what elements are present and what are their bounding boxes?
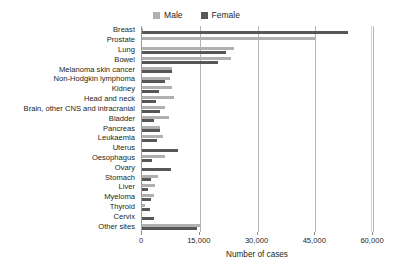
category-label: Bladder [109, 115, 135, 123]
bar-female [142, 80, 165, 83]
axis-tick-label: 30,000 [245, 236, 268, 245]
bar-female [142, 61, 218, 64]
bar-male [142, 135, 163, 138]
bar-male [142, 194, 154, 197]
bar-male [142, 204, 145, 207]
bar-female [142, 31, 348, 34]
category-label: Other sites [98, 223, 135, 231]
category-label: Brain, other CNS and intracranial [24, 105, 135, 113]
bar-male [142, 47, 234, 50]
legend-label-male: Male [164, 11, 182, 20]
bar-female [142, 129, 160, 132]
bar-male [142, 224, 201, 227]
bar-female [142, 149, 178, 152]
bar-group [142, 222, 371, 232]
axis-tick [314, 232, 315, 235]
bar-group [142, 95, 371, 105]
bar-female [142, 110, 160, 113]
bar-group [142, 46, 371, 56]
bar-group [142, 183, 371, 193]
category-label: Lung [118, 46, 135, 54]
axis-tick-label: 60,000 [360, 236, 383, 245]
bar-group [142, 75, 371, 85]
axis-tick [141, 232, 142, 235]
bar-male [142, 96, 174, 99]
category-label: Stomach [105, 174, 135, 182]
axis-tick-label: 45,000 [303, 236, 326, 245]
axis-tick [372, 232, 373, 235]
plot-area [141, 26, 372, 232]
bar-group [142, 124, 371, 134]
bar-group [142, 154, 371, 164]
bar-group [142, 203, 371, 213]
legend-entry-female: Female [201, 11, 240, 20]
cancer-incidence-bar-chart: Male Female BreastProstateLungBowelMelan… [0, 0, 393, 274]
bar-group [142, 55, 371, 65]
bar-male [142, 106, 165, 109]
category-label: Pancreas [103, 125, 135, 133]
category-label: Myeloma [104, 193, 135, 201]
category-label: Liver [119, 183, 135, 191]
axis-tick [257, 232, 258, 235]
bar-female [142, 159, 152, 162]
bar-male [142, 175, 158, 178]
bar-male [142, 37, 316, 40]
bar-group [142, 193, 371, 203]
bar-group [142, 65, 371, 75]
category-label: Kidney [112, 85, 135, 93]
category-label: Thyroid [110, 203, 135, 211]
category-label: Leukaemia [98, 134, 135, 142]
bar-female [142, 178, 151, 181]
category-label: Oesophagus [92, 154, 135, 162]
bar-male [142, 126, 160, 129]
bar-female [142, 70, 172, 73]
bar-female [142, 90, 159, 93]
legend-swatch-female [201, 12, 208, 19]
category-label: Breast [113, 26, 135, 34]
category-label: Melanoma skin cancer [59, 66, 135, 74]
bar-male [142, 57, 231, 60]
axis-tick-label: 15,000 [187, 236, 210, 245]
category-label: Bowel [114, 56, 135, 64]
bar-group [142, 104, 371, 114]
category-label: Head and neck [84, 95, 135, 103]
bar-female [142, 198, 151, 201]
gridline [373, 26, 374, 232]
bar-female [142, 100, 156, 103]
bar-male [142, 116, 169, 119]
category-axis: BreastProstateLungBowelMelanoma skin can… [0, 26, 138, 232]
bar-group [142, 163, 371, 173]
bar-group [142, 26, 371, 36]
bar-group [142, 36, 371, 46]
bar-group [142, 144, 371, 154]
bar-female [142, 139, 157, 142]
bar-group [142, 212, 371, 222]
bar-group [142, 134, 371, 144]
bar-female [142, 217, 154, 220]
category-label: Ovary [115, 164, 135, 172]
bar-female [142, 188, 148, 191]
bar-female [142, 227, 197, 230]
bar-male [142, 86, 172, 89]
legend-entry-male: Male [153, 11, 182, 20]
category-label: Prostate [107, 36, 135, 44]
bar-group [142, 114, 371, 124]
category-label: Uterus [113, 144, 135, 152]
plot-wrapper: BreastProstateLungBowelMelanoma skin can… [0, 26, 393, 232]
axis-tick [199, 232, 200, 235]
bar-group [142, 173, 371, 183]
category-label: Non-Hodgkin lymphoma [54, 75, 135, 83]
value-axis: 015,00030,00045,00060,000 [141, 232, 373, 248]
chart-legend: Male Female [0, 9, 393, 21]
bar-male [142, 184, 155, 187]
bar-female [142, 119, 154, 122]
bar-female [142, 208, 150, 211]
bar-male [142, 77, 170, 80]
category-label: Cervix [113, 213, 135, 221]
legend-swatch-male [153, 12, 160, 19]
bar-male [142, 67, 172, 70]
legend-label-female: Female [212, 11, 240, 20]
bar-female [142, 51, 226, 54]
bar-male [142, 28, 143, 31]
bar-group [142, 85, 371, 95]
